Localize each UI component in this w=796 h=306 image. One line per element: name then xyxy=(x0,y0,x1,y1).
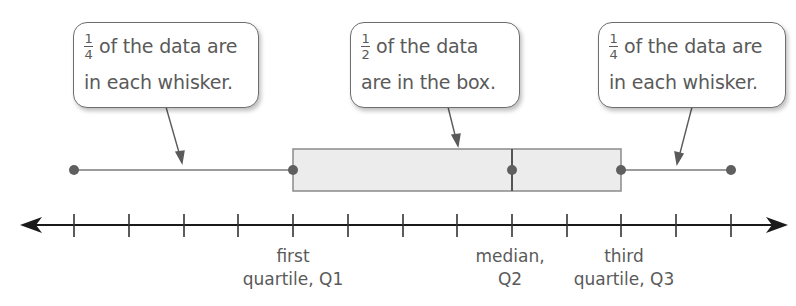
callout-text-line1: of the data are xyxy=(99,29,237,63)
q3-dot xyxy=(616,165,626,175)
label-median: median, Q2 xyxy=(475,245,544,291)
callout-text-line2: are in the box. xyxy=(361,65,509,99)
label-line2: quartile, Q3 xyxy=(574,268,675,291)
denominator: 4 xyxy=(609,48,617,61)
callout-left-whisker: 1 4 of the data are in each whisker. xyxy=(73,22,259,108)
numerator: 1 xyxy=(361,32,369,45)
callout-text-line1: of the data are xyxy=(624,29,762,63)
callout-text-line2: in each whisker. xyxy=(84,65,248,99)
callout-text-line1: of the data xyxy=(376,29,478,63)
label-line2: quartile, Q1 xyxy=(243,268,344,291)
arrowhead-icon xyxy=(176,151,184,163)
numerator: 1 xyxy=(84,32,92,45)
number-line xyxy=(20,214,788,237)
label-first-quartile: first quartile, Q1 xyxy=(243,245,344,291)
label-line1: median, xyxy=(475,245,544,268)
callout-right-whisker: 1 4 of the data are in each whisker. xyxy=(598,22,786,108)
box-plot xyxy=(69,149,736,191)
label-line2: Q2 xyxy=(475,268,544,291)
arrowhead-icon xyxy=(452,134,460,146)
fraction: 1 2 xyxy=(361,32,370,61)
denominator: 2 xyxy=(361,48,369,61)
callout-text-line2: in each whisker. xyxy=(609,65,775,99)
fraction: 1 4 xyxy=(609,32,618,61)
arrowhead-icon xyxy=(675,152,683,164)
callout-box: 1 2 of the data are in the box. xyxy=(350,22,520,108)
fraction: 1 4 xyxy=(84,32,93,61)
median-dot xyxy=(507,165,517,175)
box xyxy=(293,149,621,191)
q1-dot xyxy=(288,165,298,175)
label-third-quartile: third quartile, Q3 xyxy=(574,245,675,291)
label-line1: first xyxy=(243,245,344,268)
minimum-dot xyxy=(69,165,79,175)
maximum-dot xyxy=(726,165,736,175)
label-line1: third xyxy=(574,245,675,268)
numerator: 1 xyxy=(609,32,617,45)
denominator: 4 xyxy=(84,48,92,61)
